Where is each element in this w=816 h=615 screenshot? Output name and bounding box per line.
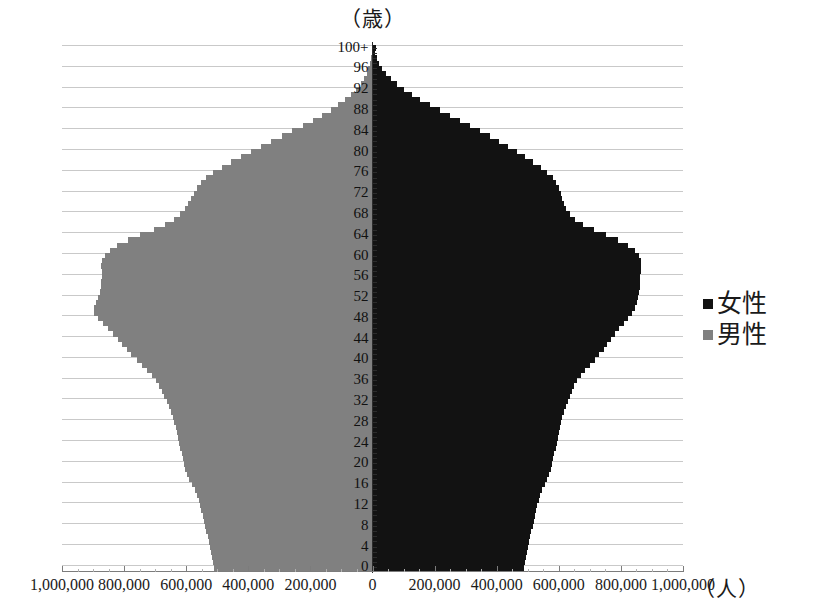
x-axis-minor-tick bbox=[667, 569, 668, 572]
bar-female bbox=[373, 180, 557, 186]
y-axis-label: 96 bbox=[329, 60, 369, 75]
y-axis-tick bbox=[372, 245, 377, 246]
y-axis-tick bbox=[372, 479, 377, 480]
y-axis-tick bbox=[372, 318, 377, 319]
y-axis-tick bbox=[372, 557, 377, 558]
x-axis-tick bbox=[186, 566, 187, 572]
bar-female bbox=[373, 471, 550, 477]
bar-female bbox=[373, 263, 642, 269]
legend-swatch-icon bbox=[703, 330, 713, 340]
bar-female bbox=[373, 367, 586, 373]
bar-female bbox=[373, 222, 584, 228]
bar-female bbox=[373, 554, 527, 560]
bar-female bbox=[373, 409, 564, 415]
y-axis-tick bbox=[372, 167, 377, 168]
x-axis-tick bbox=[559, 566, 560, 572]
y-axis-label: 76 bbox=[329, 164, 369, 179]
x-axis-minor-tick bbox=[528, 569, 529, 572]
y-axis-label: 88 bbox=[329, 102, 369, 117]
bar-female bbox=[373, 357, 595, 363]
y-axis-tick bbox=[372, 84, 377, 85]
bar-female bbox=[373, 476, 548, 482]
bar-female bbox=[373, 450, 555, 456]
y-axis-tick bbox=[372, 500, 377, 501]
x-axis-minor-tick bbox=[93, 569, 94, 572]
bar-female bbox=[373, 165, 541, 171]
bar-female bbox=[373, 211, 570, 217]
y-axis-tick bbox=[372, 302, 377, 303]
y-axis-tick bbox=[372, 120, 377, 121]
bar-female bbox=[373, 528, 532, 534]
y-axis-label: 84 bbox=[329, 123, 369, 138]
x-axis-minor-tick bbox=[341, 569, 342, 572]
bar-female bbox=[373, 393, 570, 399]
y-axis-tick bbox=[372, 521, 377, 522]
y-axis-label: 44 bbox=[329, 331, 369, 346]
bar-female bbox=[373, 284, 640, 290]
bar-female bbox=[373, 440, 557, 446]
bar-female bbox=[373, 206, 567, 212]
bar-female bbox=[373, 560, 526, 566]
x-axis-label: 1,000,000 bbox=[628, 576, 738, 594]
bar-female bbox=[373, 144, 509, 150]
y-axis-tick bbox=[372, 391, 377, 392]
y-axis-label: 8 bbox=[329, 518, 369, 533]
bar-female bbox=[373, 549, 528, 555]
y-axis-tick bbox=[372, 74, 377, 75]
legend-label: 男性 bbox=[717, 322, 767, 347]
x-axis-minor-tick bbox=[466, 569, 467, 572]
y-axis-tick bbox=[372, 214, 377, 215]
y-axis-tick bbox=[372, 79, 377, 80]
bar-female bbox=[373, 378, 578, 384]
bar-female bbox=[373, 128, 481, 134]
bar-female bbox=[373, 118, 461, 124]
y-axis-tick bbox=[372, 53, 377, 54]
x-axis-minor-tick bbox=[404, 569, 405, 572]
y-axis-tick bbox=[372, 453, 377, 454]
y-axis-tick bbox=[372, 48, 377, 49]
bar-female bbox=[373, 435, 559, 441]
bar-female bbox=[373, 352, 600, 358]
y-axis-tick bbox=[372, 126, 377, 127]
y-axis-tick bbox=[372, 188, 377, 189]
bar-female bbox=[373, 388, 572, 394]
y-axis-tick bbox=[372, 458, 377, 459]
bar-female bbox=[373, 87, 405, 93]
x-axis-minor-tick bbox=[450, 569, 451, 572]
bar-female bbox=[373, 544, 529, 550]
y-axis-tick bbox=[372, 526, 377, 527]
y-axis-tick bbox=[372, 162, 377, 163]
y-axis-label: 68 bbox=[329, 206, 369, 221]
y-axis-tick bbox=[372, 89, 377, 90]
bar-female bbox=[373, 305, 635, 311]
y-axis-tick bbox=[372, 240, 377, 241]
y-axis-tick bbox=[372, 536, 377, 537]
y-axis-tick bbox=[372, 432, 377, 433]
y-axis-label: 0 bbox=[329, 559, 369, 574]
y-axis-tick bbox=[372, 198, 377, 199]
bar-female bbox=[373, 196, 563, 202]
bar-female bbox=[373, 362, 590, 368]
x-axis-minor-tick bbox=[233, 569, 234, 572]
x-axis-tick bbox=[435, 566, 436, 572]
y-axis-tick bbox=[372, 437, 377, 438]
y-axis-label: 40 bbox=[329, 351, 369, 366]
y-axis-label: 4 bbox=[329, 539, 369, 554]
y-axis-tick bbox=[372, 349, 377, 350]
y-axis-tick bbox=[372, 484, 377, 485]
bar-female bbox=[373, 149, 517, 155]
bar-female bbox=[373, 237, 618, 243]
bar-female bbox=[373, 372, 582, 378]
y-axis-tick bbox=[372, 323, 377, 324]
x-axis-minor-tick bbox=[109, 569, 110, 572]
y-axis-tick bbox=[372, 141, 377, 142]
x-axis-minor-tick bbox=[605, 569, 606, 572]
y-axis-label: 56 bbox=[329, 268, 369, 283]
x-axis-tick bbox=[683, 566, 684, 572]
x-axis-minor-tick bbox=[512, 569, 513, 572]
bar-female bbox=[373, 269, 642, 275]
legend-item: 女性 bbox=[703, 288, 767, 319]
y-axis-tick bbox=[372, 422, 377, 423]
y-axis-label: 16 bbox=[329, 476, 369, 491]
y-axis-tick bbox=[372, 333, 377, 334]
